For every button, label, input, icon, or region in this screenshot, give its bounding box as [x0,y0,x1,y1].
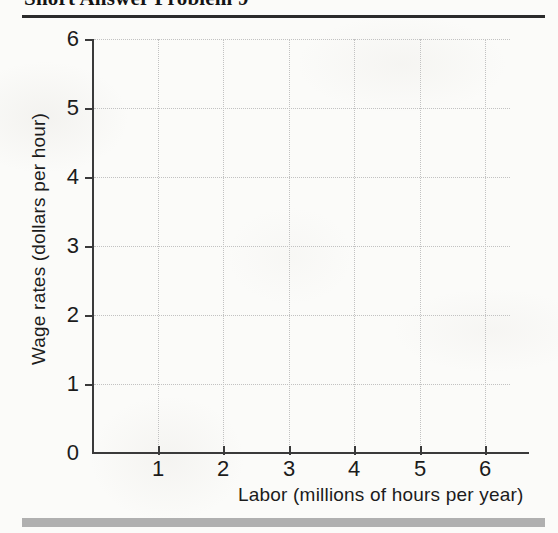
y-tick-label-2: 2 [57,302,79,328]
y-tick-label-1: 1 [57,371,79,397]
gridline-vertical-4 [354,39,355,447]
y-axis-label: Wage rates (dollars per hour) [28,104,50,374]
x-tick-mark-1 [158,446,160,455]
gridline-vertical-5 [420,39,421,447]
x-tick-label-1: 1 [145,456,171,482]
y-tick-label-4: 4 [57,164,79,190]
y-tick-mark-5 [85,108,94,110]
x-tick-label-3: 3 [276,456,302,482]
gridline-vertical-3 [289,39,290,447]
y-tick-label-6: 6 [57,26,79,52]
y-tick-mark-3 [85,246,94,248]
y-tick-label-0: 0 [57,440,79,466]
gridline-horizontal-4 [94,177,510,178]
graph-figure: 6 5 4 3 2 1 0 1 2 3 4 5 6 Wage rates (do… [0,0,558,533]
y-tick-mark-6 [85,39,94,41]
x-tick-mark-4 [354,446,356,455]
y-tick-label-5: 5 [57,95,79,121]
y-tick-mark-2 [85,315,94,317]
x-axis-label: Labor (millions of hours per year) [238,484,524,506]
x-tick-mark-6 [485,446,487,455]
gridline-horizontal-1 [94,384,510,385]
footer-divider-bar [22,518,545,527]
gridline-horizontal-6 [94,39,510,40]
x-tick-label-2: 2 [210,456,236,482]
gridline-horizontal-5 [94,108,510,109]
gridline-vertical-2 [223,39,224,447]
gridline-vertical-1 [158,39,159,447]
gridline-horizontal-2 [94,315,510,316]
gridline-vertical-6 [485,39,486,447]
x-tick-mark-2 [223,446,225,455]
y-tick-mark-4 [85,177,94,179]
y-tick-mark-1 [85,384,94,386]
x-tick-label-6: 6 [472,456,498,482]
worksheet-page: Short Answer Problem 9 [0,0,558,533]
y-tick-label-3: 3 [57,233,79,259]
x-tick-mark-3 [289,446,291,455]
x-tick-mark-5 [420,446,422,455]
x-tick-label-4: 4 [341,456,367,482]
gridline-horizontal-3 [94,246,510,247]
x-tick-label-5: 5 [407,456,433,482]
